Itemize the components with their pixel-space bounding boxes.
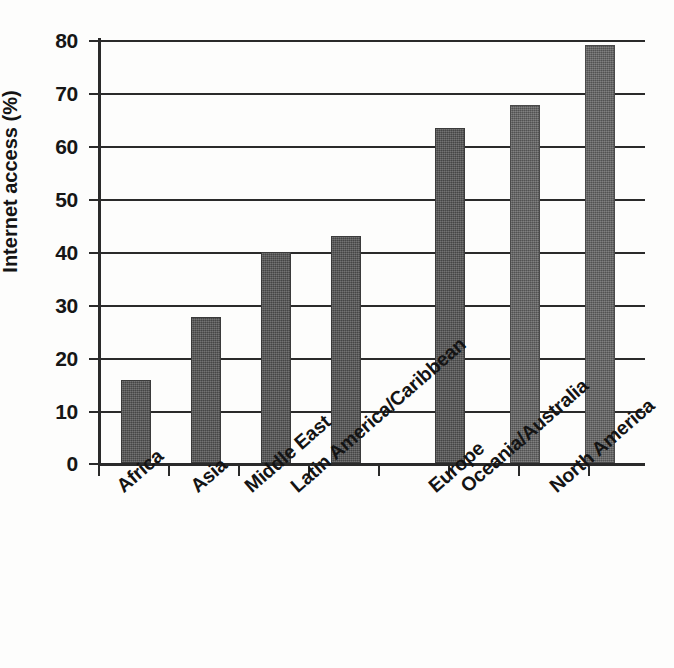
y-tick-label-40: 40 <box>38 241 78 265</box>
y-tick-label-0: 0 <box>38 452 78 476</box>
y-tick-80 <box>89 40 98 42</box>
x-tick-4 <box>378 463 380 476</box>
y-tick-40 <box>89 252 98 254</box>
x-tick-2 <box>238 463 240 476</box>
y-tick-70 <box>89 93 98 95</box>
gridline-50 <box>98 199 645 201</box>
chart-figure: Internet access (%) 80 70 60 50 40 30 20… <box>0 0 674 668</box>
y-tick-0 <box>89 463 98 465</box>
y-axis-title: Internet access (%) <box>0 12 22 352</box>
bar-asia <box>191 317 221 463</box>
y-tick-30 <box>89 305 98 307</box>
y-tick-label-70: 70 <box>38 82 78 106</box>
y-tick-label-80: 80 <box>38 29 78 53</box>
y-tick-label-20: 20 <box>38 347 78 371</box>
gridline-70 <box>98 93 645 95</box>
y-tick-60 <box>89 146 98 148</box>
x-tick-0 <box>98 463 100 476</box>
gridline-30 <box>98 305 645 307</box>
gridline-20 <box>98 358 645 360</box>
y-tick-10 <box>89 411 98 413</box>
x-tick-6 <box>518 463 520 476</box>
y-tick-label-60: 60 <box>38 135 78 159</box>
bar-middle-east <box>261 252 291 464</box>
bar-europe <box>435 128 465 463</box>
y-tick-20 <box>89 358 98 360</box>
bar-north-america <box>585 45 615 463</box>
x-tick-1 <box>168 463 170 476</box>
y-tick-label-50: 50 <box>38 188 78 212</box>
y-tick-50 <box>89 199 98 201</box>
y-tick-label-10: 10 <box>38 400 78 424</box>
gridline-80 <box>98 40 645 42</box>
gridline-60 <box>98 146 645 148</box>
gridline-40 <box>98 252 645 254</box>
y-tick-label-30: 30 <box>38 294 78 318</box>
